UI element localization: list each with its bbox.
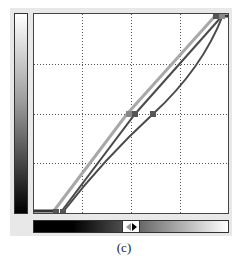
curves-svg — [34, 14, 228, 213]
dark-curve — [63, 15, 223, 212]
control-points — [53, 14, 225, 213]
dark-line — [61, 15, 223, 212]
curves-graph[interactable] — [33, 13, 229, 214]
figure-caption: (c) — [0, 240, 242, 256]
gradient-slider-handle[interactable] — [122, 220, 140, 233]
triangle-right-icon — [132, 223, 137, 231]
triangle-left-icon — [126, 223, 131, 231]
output-gradient-bar — [14, 13, 28, 214]
